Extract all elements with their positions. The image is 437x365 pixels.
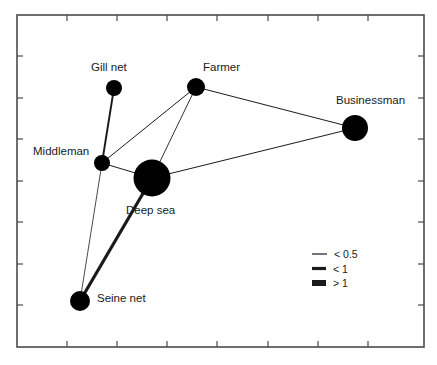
graph-node-deep-sea[interactable] [134, 160, 171, 197]
network-diagram-figure: Gill netFarmerBusinessmanMiddlemanDeep s… [0, 0, 437, 365]
figure-background [0, 0, 437, 365]
node-label-deep-sea: Deep sea [126, 204, 176, 216]
node-label-farmer: Farmer [203, 61, 240, 73]
node-label-seine-net: Seine net [97, 292, 146, 304]
network-graph-canvas: Gill netFarmerBusinessmanMiddlemanDeep s… [0, 0, 437, 365]
node-label-gill-net: Gill net [91, 61, 128, 73]
legend-label-thick: > 1 [333, 277, 348, 289]
graph-node-gill-net[interactable] [106, 80, 122, 96]
graph-node-farmer[interactable] [187, 78, 205, 96]
node-label-businessman: Businessman [336, 94, 405, 106]
node-label-middleman: Middleman [33, 145, 89, 157]
legend-label-medium: < 1 [333, 263, 348, 275]
graph-node-middleman[interactable] [94, 155, 110, 171]
legend-label-thin: < 0.5 [334, 248, 358, 260]
graph-node-seine-net[interactable] [70, 291, 90, 311]
graph-node-businessman[interactable] [342, 115, 368, 141]
